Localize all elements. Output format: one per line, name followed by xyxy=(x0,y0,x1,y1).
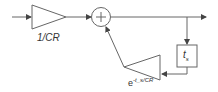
delay-to-feedback-line xyxy=(162,67,187,74)
feedback-to-summer-line xyxy=(106,27,124,67)
delay-label-subscript: s xyxy=(186,56,189,62)
feedback-gain-label: e-t_s/CR xyxy=(128,77,153,88)
feedback-gain-exponent: -t_s/CR xyxy=(133,77,153,83)
input-gain-triangle xyxy=(32,5,66,29)
input-gain-label: 1/CR xyxy=(37,32,60,43)
delay-label: ts xyxy=(183,49,189,62)
block-diagram xyxy=(0,0,218,92)
